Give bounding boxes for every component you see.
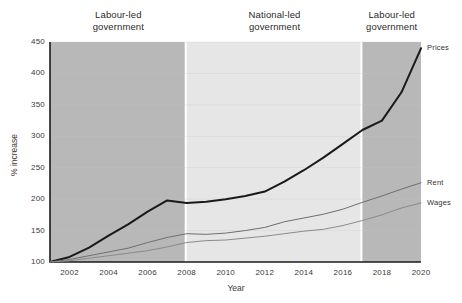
y-tick-label: 400: [19, 68, 45, 77]
band-label-3: Labour-led government: [344, 9, 440, 32]
x-tick-label: 2020: [404, 268, 438, 277]
x-tick-label: 2002: [53, 268, 87, 277]
x-tick-label: 2016: [326, 268, 360, 277]
x-tick-label: 2006: [131, 268, 165, 277]
y-axis-label: % increase: [9, 120, 19, 190]
x-tick-label: 2010: [209, 268, 243, 277]
government-band-2: [187, 42, 363, 262]
y-tick-label: 350: [19, 100, 45, 109]
x-tick-label: 2008: [170, 268, 204, 277]
chart-svg: [0, 0, 462, 303]
x-tick-label: 2014: [287, 268, 321, 277]
y-tick-label: 100: [19, 257, 45, 266]
x-axis-label: Year: [196, 283, 276, 293]
band-label-1: Labour-led government: [70, 9, 166, 32]
series-label-rent: Rent: [427, 178, 444, 187]
y-tick-label: 250: [19, 163, 45, 172]
chart-figure: % increase Year Labour-led governmentNat…: [0, 0, 462, 303]
government-band-3: [362, 42, 421, 262]
x-tick-label: 2004: [92, 268, 126, 277]
series-label-wages: Wages: [427, 198, 451, 207]
band-label-2: National-led government: [227, 9, 323, 32]
x-tick-label: 2018: [365, 268, 399, 277]
y-tick-label: 450: [19, 37, 45, 46]
x-tick-label: 2012: [248, 268, 282, 277]
y-tick-label: 150: [19, 226, 45, 235]
y-tick-label: 200: [19, 194, 45, 203]
series-label-prices: Prices: [427, 43, 449, 52]
y-tick-label: 300: [19, 131, 45, 140]
